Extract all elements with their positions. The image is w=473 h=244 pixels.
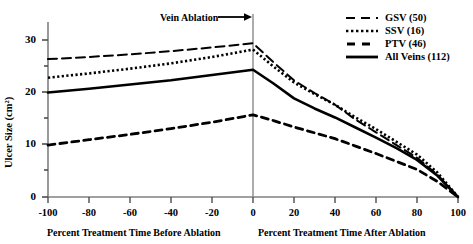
x-tick-label-0: 0: [238, 208, 268, 219]
legend-label-ssv: SSV (16): [385, 25, 424, 36]
legend-swatch-all-veins-solid-icon: [345, 51, 379, 63]
x-ticks: [48, 197, 458, 203]
x-tick-label-60: 60: [360, 208, 392, 219]
x-tick-label--80: -80: [71, 208, 107, 219]
x-tick-label--60: -60: [112, 208, 148, 219]
y-tick-label-0: 0: [14, 191, 36, 202]
x-tick-label-80: 80: [401, 208, 433, 219]
ablation-arrow-icon: [218, 13, 252, 21]
legend-label-all-veins: All Veins (112): [385, 51, 450, 62]
chart-legend: GSV (50) SSV (16) PTV (46) All Veins (11…: [345, 11, 450, 63]
x-tick-label-20: 20: [278, 208, 310, 219]
legend-item-ssv: SSV (16): [345, 24, 450, 37]
y-axis-title: Ulcer Size (cm²): [4, 97, 15, 168]
legend-item-all-veins: All Veins (112): [345, 50, 450, 63]
x-tick-label-100: 100: [440, 208, 473, 219]
legend-label-ptv: PTV (46): [385, 38, 426, 49]
x-tick-label-40: 40: [319, 208, 351, 219]
legend-item-ptv: PTV (46): [345, 37, 450, 50]
legend-item-gsv: GSV (50): [345, 11, 450, 24]
y-tick-label-10: 10: [14, 138, 36, 149]
x-axis-title-before: Percent Treatment Time Before Ablation: [47, 228, 221, 238]
legend-swatch-ptv-dash-icon: [345, 38, 379, 50]
x-tick-label--40: -40: [153, 208, 189, 219]
legend-swatch-ssv-dotted-icon: [345, 25, 379, 37]
x-tick-label--100: -100: [28, 208, 68, 219]
x-tick-label--20: -20: [194, 208, 230, 219]
legend-label-gsv: GSV (50): [385, 12, 427, 23]
chart-figure: 30 20 10 0 Ulcer Size (cm²) -100 -80 -60…: [0, 0, 473, 244]
y-tick-label-20: 20: [14, 86, 36, 97]
x-axis-title-after: Percent Treatment Time After Ablation: [258, 228, 426, 238]
legend-swatch-gsv-long-dash-icon: [345, 12, 379, 24]
y-tick-label-30: 30: [14, 34, 36, 45]
ablation-annotation-label: Vein Ablation: [160, 13, 218, 23]
